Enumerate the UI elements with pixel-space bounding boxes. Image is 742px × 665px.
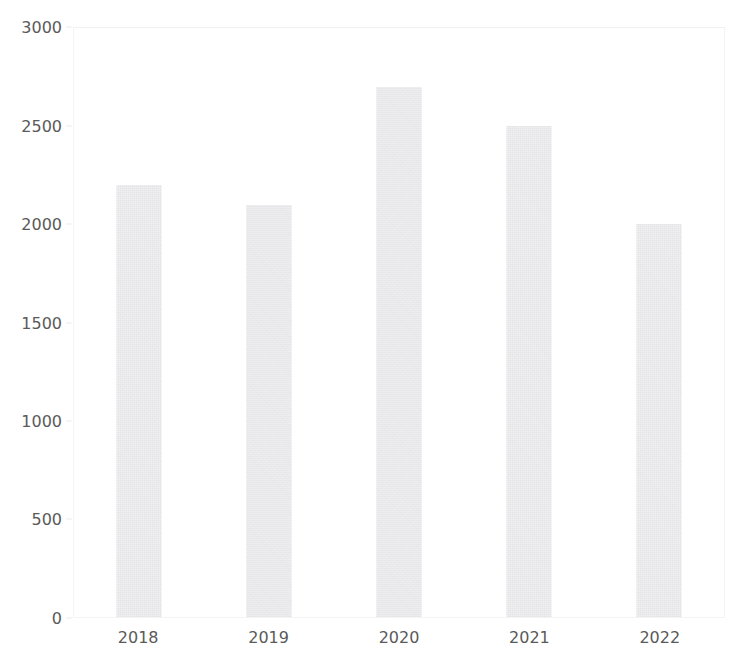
bars-layer — [74, 28, 724, 617]
bar-2021[interactable] — [507, 126, 552, 617]
y-tick-mark-0 — [66, 618, 72, 619]
x-tick-slot-2019: 2019 — [203, 628, 333, 647]
plot-area — [73, 27, 725, 618]
x-tick-slot-2020: 2020 — [334, 628, 464, 647]
y-axis: 3000 2500 2000 1500 1000 500 0 — [0, 27, 62, 618]
y-tick-label-0: 0 — [52, 609, 62, 628]
y-tick-label-2000: 2000 — [21, 214, 62, 233]
bar-slot-2022 — [594, 28, 724, 617]
x-tick-slot-2021: 2021 — [464, 628, 594, 647]
bar-chart: 3000 2500 2000 1500 1000 500 0 — [0, 0, 742, 665]
y-tick-mark-1000 — [66, 421, 72, 422]
x-tick-slot-2018: 2018 — [73, 628, 203, 647]
bar-2020[interactable] — [377, 87, 422, 617]
x-tick-slot-2022: 2022 — [595, 628, 725, 647]
y-tick-mark-500 — [66, 519, 72, 520]
y-tick-mark-1500 — [66, 322, 72, 323]
x-tick-label-2021: 2021 — [509, 628, 550, 647]
x-tick-label-2022: 2022 — [639, 628, 680, 647]
x-axis: 2018 2019 2020 2021 2022 — [73, 628, 725, 654]
bar-slot-2018 — [74, 28, 204, 617]
y-tick-mark-2000 — [66, 223, 72, 224]
y-tick-label-1500: 1500 — [21, 313, 62, 332]
y-tick-label-1000: 1000 — [21, 412, 62, 431]
bar-2022[interactable] — [637, 224, 682, 617]
y-tick-mark-2500 — [66, 125, 72, 126]
bar-2018[interactable] — [117, 185, 162, 617]
y-tick-label-3000: 3000 — [21, 18, 62, 37]
x-tick-label-2020: 2020 — [379, 628, 420, 647]
x-tick-label-2018: 2018 — [118, 628, 159, 647]
bar-2019[interactable] — [247, 205, 292, 617]
chart-title — [0, 0, 742, 9]
x-tick-label-2019: 2019 — [248, 628, 289, 647]
bar-slot-2020 — [334, 28, 464, 617]
bar-slot-2019 — [204, 28, 334, 617]
y-tick-mark-3000 — [66, 27, 72, 28]
y-tick-label-2500: 2500 — [21, 116, 62, 135]
bar-slot-2021 — [464, 28, 594, 617]
y-tick-label-500: 500 — [31, 510, 62, 529]
